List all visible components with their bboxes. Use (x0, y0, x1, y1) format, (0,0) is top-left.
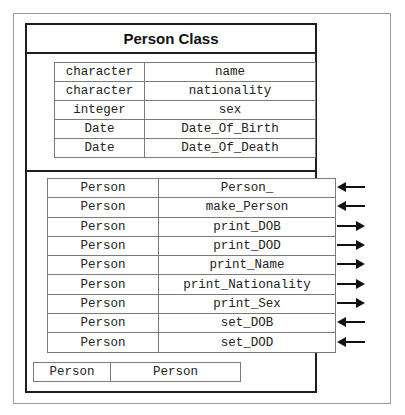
method-type: Person (48, 275, 159, 294)
method-row: Personprint_DOB (48, 217, 336, 236)
methods-divider (27, 170, 315, 172)
method-name: print_DOD (159, 236, 336, 255)
attribute-type: integer (55, 101, 145, 120)
attribute-row: characternationality (55, 82, 316, 101)
arrow-right-icon (337, 258, 365, 270)
arrow-left-icon (337, 336, 365, 348)
method-type: Person (48, 198, 159, 217)
method-row: PersonPerson_ (48, 179, 336, 198)
method-name: Person_ (159, 179, 336, 198)
constructor-type: Person (34, 363, 111, 382)
attribute-type: character (55, 63, 145, 82)
arrow-right-icon (337, 239, 365, 251)
method-type: Person (48, 236, 159, 255)
arrow-left-icon (337, 181, 365, 193)
attribute-name: name (145, 63, 316, 82)
class-title-band: Person Class (27, 25, 315, 54)
attribute-row: DateDate_Of_Death (55, 139, 316, 158)
method-type: Person (48, 179, 159, 198)
methods-table: PersonPerson_ Personmake_Person Personpr… (47, 178, 336, 353)
attribute-name: Date_Of_Death (145, 139, 316, 158)
method-row: Personprint_DOD (48, 236, 336, 255)
method-type: Person (48, 333, 159, 352)
attribute-type: character (55, 82, 145, 101)
attribute-row: charactername (55, 63, 316, 82)
constructor-name: Person (111, 363, 241, 382)
method-type: Person (48, 314, 159, 333)
class-title: Person Class (123, 30, 218, 47)
arrow-right-icon (337, 297, 365, 309)
method-name: print_Nationality (159, 275, 336, 294)
method-row: Personset_DOB (48, 314, 336, 333)
figure-caption-clipped (13, 409, 313, 415)
method-name: set_DOB (159, 314, 336, 333)
attribute-row: DateDate_Of_Birth (55, 120, 316, 139)
attribute-row: integersex (55, 101, 316, 120)
method-name: print_Name (159, 256, 336, 275)
method-row: Personprint_Name (48, 256, 336, 275)
attribute-type: Date (55, 120, 145, 139)
arrow-left-icon (337, 200, 365, 212)
method-type: Person (48, 217, 159, 236)
method-row: Personmake_Person (48, 198, 336, 217)
attribute-name: nationality (145, 82, 316, 101)
method-row: Personset_DOD (48, 333, 336, 352)
constructor-row: PersonPerson (34, 363, 241, 382)
attribute-name: Date_Of_Birth (145, 120, 316, 139)
method-row: Personprint_Sex (48, 294, 336, 313)
method-name: set_DOD (159, 333, 336, 352)
constructor-table: PersonPerson (33, 362, 241, 382)
arrow-left-icon (337, 316, 365, 328)
attribute-type: Date (55, 139, 145, 158)
arrow-right-icon (337, 220, 365, 232)
method-type: Person (48, 294, 159, 313)
attributes-table: charactername characternationality integ… (54, 62, 316, 158)
method-row: Personprint_Nationality (48, 275, 336, 294)
arrow-right-icon (337, 278, 365, 290)
method-name: make_Person (159, 198, 336, 217)
method-name: print_DOB (159, 217, 336, 236)
attribute-name: sex (145, 101, 316, 120)
method-type: Person (48, 256, 159, 275)
method-name: print_Sex (159, 294, 336, 313)
